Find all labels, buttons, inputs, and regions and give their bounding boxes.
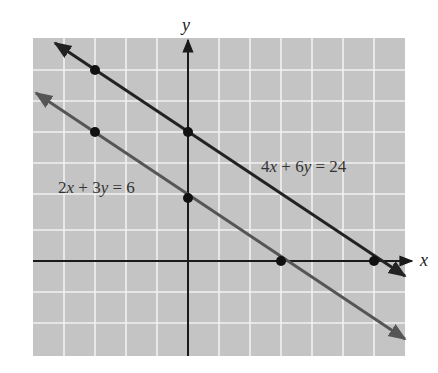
point-neg3-6 bbox=[90, 65, 100, 75]
point-neg3-4 bbox=[90, 127, 100, 137]
x-axis-label: x bbox=[419, 250, 428, 270]
point-3-0 bbox=[276, 256, 286, 266]
coordinate-graph: x y 4x + 6y = 24 2x + 3y = 6 bbox=[0, 0, 438, 373]
point-6-0 bbox=[369, 256, 379, 266]
point-0-2 bbox=[183, 193, 193, 203]
label-4x-6y-24: 4x + 6y = 24 bbox=[261, 157, 347, 176]
y-axis-label: y bbox=[180, 15, 190, 35]
label-2x-3y-6: 2x + 3y = 6 bbox=[58, 178, 135, 197]
point-0-4 bbox=[183, 127, 193, 137]
